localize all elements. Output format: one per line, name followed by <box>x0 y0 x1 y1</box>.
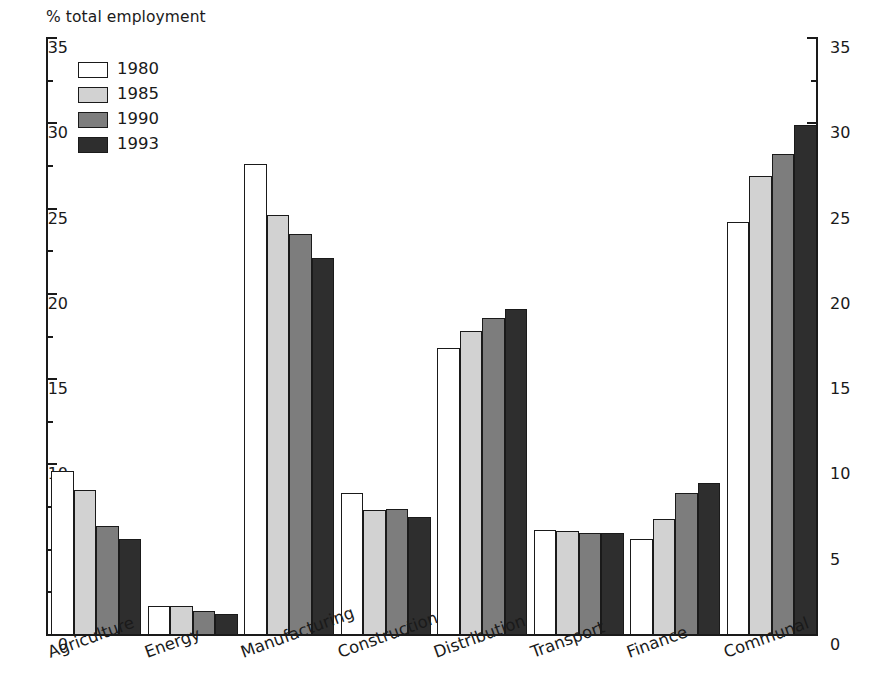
bar-finance-1985 <box>653 519 676 635</box>
bar-group-finance <box>630 38 720 635</box>
legend-item-1985: 1985 <box>78 82 159 107</box>
legend-label-1980: 1980 <box>117 61 159 78</box>
bar-energy-1980 <box>148 606 171 635</box>
y-tick-label-right-20: 20 <box>830 294 850 313</box>
legend-label-1990: 1990 <box>117 111 159 128</box>
y-tick-label-right-15: 15 <box>830 379 850 398</box>
bar-group-distribution <box>437 38 527 635</box>
y-tick-label-right-0: 0 <box>830 635 840 654</box>
legend-swatch-1985 <box>78 87 108 103</box>
bar-distribution-1993 <box>505 309 528 635</box>
plot-area: 0055101015152020252530303535 <box>46 38 818 635</box>
bar-distribution-1980 <box>437 348 460 635</box>
bar-finance-1980 <box>630 539 653 635</box>
legend-label-1993: 1993 <box>117 136 159 153</box>
bar-distribution-1990 <box>482 318 505 635</box>
bar-agriculture-1980 <box>51 471 74 635</box>
y-tick-label-right-10: 10 <box>830 464 850 483</box>
bar-group-energy <box>148 38 238 635</box>
bar-communal-1990 <box>772 154 795 635</box>
bar-finance-1990 <box>675 493 698 635</box>
bar-construction-1985 <box>363 510 386 635</box>
legend-item-1993: 1993 <box>78 132 159 157</box>
bar-group-communal <box>727 38 817 635</box>
y-tick-label-right-30: 30 <box>830 123 850 142</box>
bar-communal-1980 <box>727 222 750 635</box>
legend-swatch-1980 <box>78 62 108 78</box>
bar-manufacturing-1985 <box>267 215 290 635</box>
bar-manufacturing-1993 <box>312 258 335 635</box>
bar-communal-1985 <box>749 176 772 635</box>
bar-manufacturing-1990 <box>289 234 312 635</box>
y-axis-title: % total employment <box>46 8 206 26</box>
bar-manufacturing-1980 <box>244 164 267 635</box>
chart-legend: 1980 1985 1990 1993 <box>78 57 159 157</box>
legend-item-1990: 1990 <box>78 107 159 132</box>
bar-agriculture-1985 <box>74 490 97 635</box>
bar-transport-1980 <box>534 530 557 635</box>
bar-chart: % total employment 005510101515202025253… <box>0 0 873 697</box>
legend-item-1980: 1980 <box>78 57 159 82</box>
y-tick-label-right-5: 5 <box>830 550 840 569</box>
y-tick-label-right-35: 35 <box>830 38 850 57</box>
legend-label-1985: 1985 <box>117 86 159 103</box>
bar-construction-1990 <box>386 509 409 635</box>
bar-distribution-1985 <box>460 331 483 635</box>
y-tick-label-right-25: 25 <box>830 209 850 228</box>
bar-transport-1985 <box>556 531 579 635</box>
bar-group-construction <box>341 38 431 635</box>
bar-finance-1993 <box>698 483 721 635</box>
bar-group-transport <box>534 38 624 635</box>
bar-group-manufacturing <box>244 38 334 635</box>
bar-energy-1993 <box>215 614 238 635</box>
legend-swatch-1993 <box>78 137 108 153</box>
bar-transport-1993 <box>601 533 624 635</box>
bar-communal-1993 <box>794 125 817 635</box>
legend-swatch-1990 <box>78 112 108 128</box>
